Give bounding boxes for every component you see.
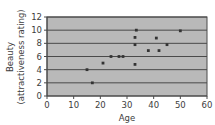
data-point	[134, 36, 137, 39]
y-tick-label: 10	[31, 25, 42, 35]
y-axis-ticks: 024681012	[31, 12, 47, 101]
x-tick-label: 10	[68, 100, 79, 110]
data-point	[134, 43, 137, 46]
data-point	[147, 49, 150, 52]
data-point	[102, 62, 105, 65]
data-point	[110, 55, 113, 58]
y-axis-title: Beauty (attractiveness rating)	[5, 9, 26, 104]
x-tick-label: 40	[148, 100, 159, 110]
scatter-chart: 024681012 0102030405060 Age Beauty (attr…	[0, 0, 215, 125]
data-point	[135, 29, 138, 32]
y-axis: 024681012	[31, 12, 47, 101]
y-tick-label: 8	[37, 38, 42, 48]
data-point	[118, 55, 121, 58]
y-axis-title-line2: (attractiveness rating)	[16, 9, 26, 104]
data-point	[91, 81, 94, 84]
plot-area	[47, 17, 207, 96]
x-tick-label: 0	[44, 100, 49, 110]
data-point	[122, 55, 125, 58]
chart-canvas: 024681012 0102030405060 Age Beauty (attr…	[0, 0, 215, 125]
data-point	[86, 68, 89, 71]
data-point	[179, 29, 182, 32]
y-tick-label: 0	[37, 91, 42, 101]
x-tick-label: 20	[95, 100, 106, 110]
data-point	[134, 63, 137, 66]
data-point	[166, 43, 169, 46]
y-tick-label: 2	[37, 78, 42, 88]
x-tick-label: 30	[122, 100, 133, 110]
y-axis-title-line1: Beauty	[5, 42, 15, 72]
data-point	[158, 49, 161, 52]
x-tick-label: 50	[175, 100, 186, 110]
data-point	[155, 37, 158, 40]
x-tick-label: 60	[202, 100, 213, 110]
y-tick-label: 6	[37, 52, 42, 62]
y-tick-label: 12	[31, 12, 42, 22]
y-tick-label: 4	[37, 65, 42, 75]
x-axis: 0102030405060	[44, 96, 212, 110]
x-axis-title: Age	[119, 113, 135, 123]
x-axis-ticks: 0102030405060	[44, 96, 212, 110]
